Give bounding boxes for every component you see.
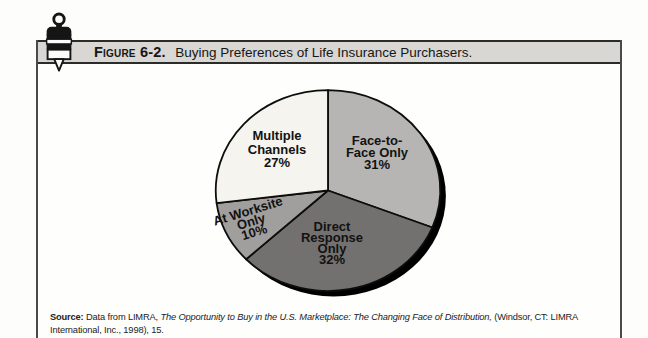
pie-label-value: 32% <box>301 254 363 265</box>
figure-page: Figure 6-2. Buying Preferences of Life I… <box>0 0 648 338</box>
source-title: The Opportunity to Buy in the U.S. Marke… <box>160 312 491 322</box>
figure-title: Buying Preferences of Life Insurance Pur… <box>175 45 472 60</box>
pie-label-face-to-face-only: Face-to- Face Only 31% <box>346 135 408 171</box>
source-note: Source: Data from LIMRA, The Opportunity… <box>50 311 620 337</box>
pushpin-icon <box>40 10 78 76</box>
pie-label-value: 31% <box>346 159 408 171</box>
pie-label-direct-response-only: Direct Response Only 32% <box>301 221 363 265</box>
pie-label-value: 27% <box>248 156 307 170</box>
pie-label-line: Multiple <box>248 129 307 143</box>
source-pre-title: Data from LIMRA, <box>84 312 161 322</box>
pie-label-line: Channels <box>248 143 307 157</box>
pie-label-multiple-channels: Multiple Channels 27% <box>248 129 307 170</box>
figure-number-label: Figure 6-2. <box>94 44 166 60</box>
figure-header: Figure 6-2. Buying Preferences of Life I… <box>38 40 620 64</box>
figure-caption: Figure 6-2. Buying Preferences of Life I… <box>94 43 472 61</box>
source-prefix: Source: <box>50 312 84 322</box>
